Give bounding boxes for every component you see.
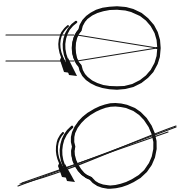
eye-diagram-figure xyxy=(0,0,179,193)
diagram-canvas xyxy=(0,0,179,193)
retinal-focal-point xyxy=(156,47,158,49)
